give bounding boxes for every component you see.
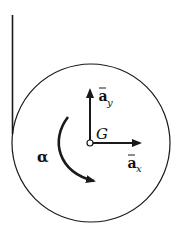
label-ax: a x: [128, 155, 143, 174]
center-point-g: [87, 140, 93, 146]
ax-subscript: x: [136, 163, 142, 174]
label-alpha: α: [37, 148, 49, 166]
label-g: G: [96, 125, 108, 143]
label-ay: a y: [99, 88, 114, 108]
alpha-curved-arrow: [59, 117, 94, 181]
ay-subscript: y: [106, 97, 113, 108]
disk-acceleration-diagram: G a y a x α: [0, 0, 182, 228]
